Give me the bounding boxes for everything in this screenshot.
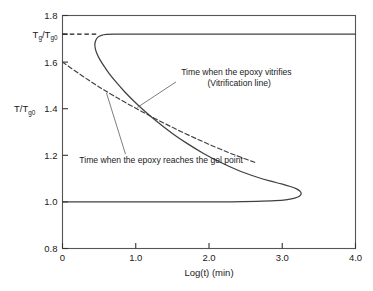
x-tick-label: 1.0 [129,252,142,263]
annotation-text: (Vitrification line) [207,78,271,88]
y-tick-label: 1.4 [44,103,57,114]
y-tick-label: 0.8 [44,243,57,254]
annotation-text: Time when the epoxy reaches the gel poin… [79,155,243,165]
annotation-text: Time when the epoxy vitrifies [181,67,291,77]
y-tick-label: 1.6 [44,57,57,68]
x-axis-title: Log(t) (min) [184,267,233,278]
ttt-cure-diagram: 0.81.01.21.41.61.8Tg/Tg0 01.02.03.04.0 T… [0,0,373,291]
y-tick-label: 1.0 [44,196,57,207]
x-tick-label: 4.0 [349,252,362,263]
x-tick-label: 2.0 [202,252,215,263]
chart-canvas: 0.81.01.21.41.61.8Tg/Tg0 01.02.03.04.0 T… [0,0,373,291]
y-tick-label: 1.8 [44,10,57,21]
x-tick-label: 0 [60,252,65,263]
x-tick-label: 3.0 [276,252,289,263]
y-tick-label: 1.2 [44,150,57,161]
